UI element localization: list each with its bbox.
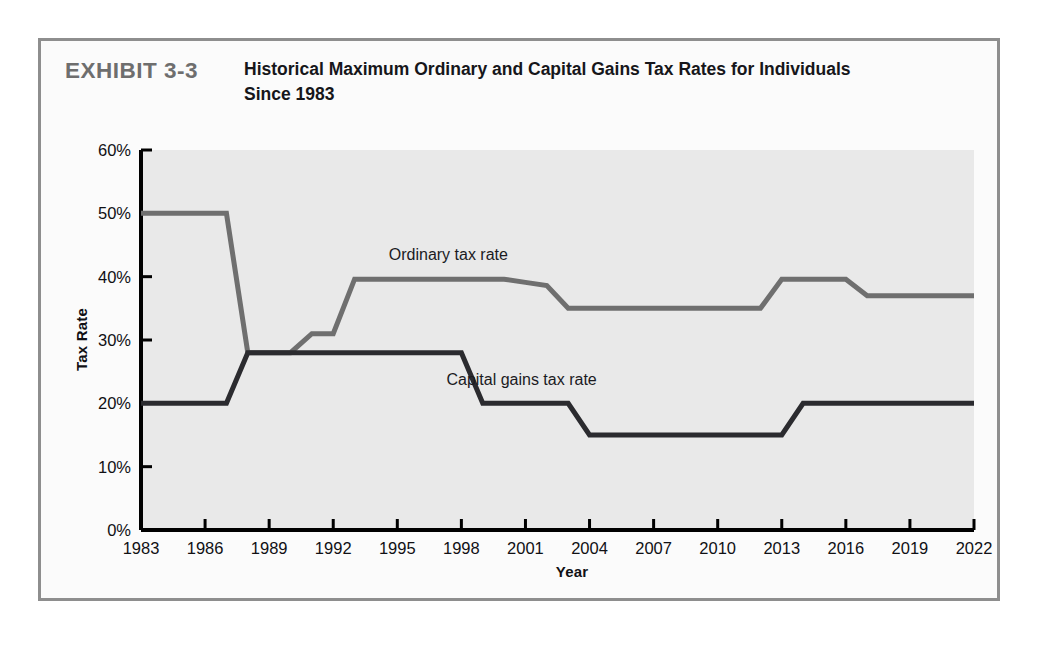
x-tick-label: 1983: [106, 540, 176, 557]
x-axis-title: Year: [141, 563, 1003, 580]
series-label-1: Ordinary tax rate: [389, 246, 508, 264]
x-tick-label: 2013: [747, 540, 817, 557]
x-tick-label: 2022: [939, 540, 1009, 557]
x-tick-label: 1995: [362, 540, 432, 557]
y-tick-label: 20%: [77, 395, 131, 412]
x-tick-label: 2019: [875, 540, 945, 557]
y-tick-label: 60%: [77, 142, 131, 159]
plot-canvas: [41, 41, 1003, 604]
tax-rate-line-chart: Tax Rate Year 0%10%20%30%40%50%60% 19831…: [41, 41, 997, 598]
x-tick-label: 1986: [170, 540, 240, 557]
y-tick-label: 50%: [77, 205, 131, 222]
x-tick-label: 2010: [683, 540, 753, 557]
x-tick-label: 1992: [298, 540, 368, 557]
x-tick-label: 2001: [490, 540, 560, 557]
x-tick-label: 2016: [811, 540, 881, 557]
plot-background: [141, 150, 974, 530]
x-tick-label: 2004: [555, 540, 625, 557]
exhibit-frame: EXHIBIT 3-3 Historical Maximum Ordinary …: [38, 38, 1000, 601]
y-tick-label: 30%: [77, 332, 131, 349]
y-tick-label: 0%: [77, 522, 131, 539]
y-tick-label: 40%: [77, 269, 131, 286]
x-tick-label: 1989: [234, 540, 304, 557]
y-tick-label: 10%: [77, 459, 131, 476]
x-tick-label: 2007: [619, 540, 689, 557]
x-tick-label: 1998: [426, 540, 496, 557]
series-label-2: Capital gains tax rate: [446, 371, 596, 389]
